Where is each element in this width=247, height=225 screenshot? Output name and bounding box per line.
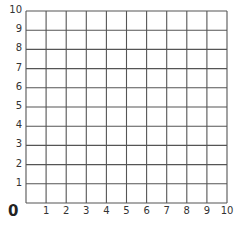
x-tick-label: 3 <box>79 206 93 216</box>
y-tick-label: 6 <box>8 82 22 92</box>
x-tick-label: 7 <box>160 206 174 216</box>
y-tick-label: 5 <box>8 101 22 111</box>
coordinate-grid <box>0 0 247 225</box>
y-tick-label: 8 <box>8 43 22 53</box>
y-tick-label: 9 <box>8 24 22 34</box>
x-tick-label: 10 <box>220 206 234 216</box>
y-tick-label: 2 <box>8 159 22 169</box>
y-tick-label: 1 <box>8 178 22 188</box>
x-tick-label: 4 <box>99 206 113 216</box>
x-tick-label: 8 <box>180 206 194 216</box>
x-tick-label: 6 <box>140 206 154 216</box>
y-tick-label: 10 <box>8 5 22 15</box>
x-tick-label: 9 <box>200 206 214 216</box>
x-tick-label: 2 <box>59 206 73 216</box>
y-tick-label: 4 <box>8 120 22 130</box>
x-tick-label: 5 <box>120 206 134 216</box>
origin-label: 0 <box>8 203 18 219</box>
y-tick-label: 3 <box>8 139 22 149</box>
y-tick-label: 7 <box>8 63 22 73</box>
x-tick-label: 1 <box>39 206 53 216</box>
